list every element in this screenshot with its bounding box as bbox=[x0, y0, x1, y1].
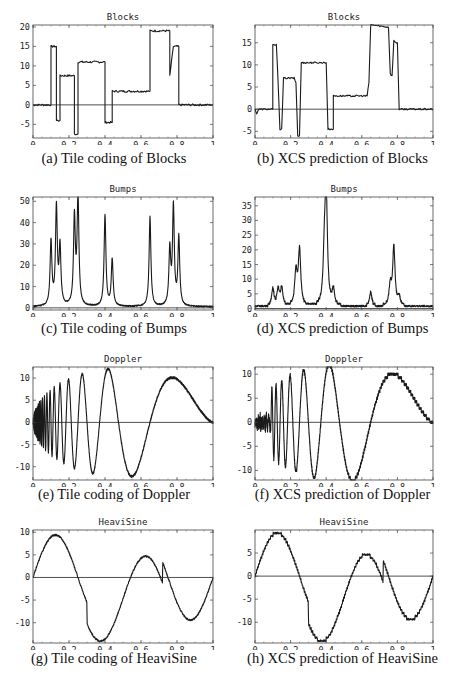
blocks-xcs-chart: Blocks00.20.40.60.81-5051015 bbox=[228, 0, 457, 145]
plot-area bbox=[33, 197, 213, 307]
y-tick-label: 5 bbox=[247, 548, 252, 558]
x-tick-label: 0 bbox=[30, 140, 35, 145]
y-tick-label: 10 bbox=[20, 61, 30, 71]
y-tick-label: -10 bbox=[15, 462, 30, 472]
y-tick-label: 50 bbox=[20, 196, 30, 206]
heavisine-xcs-chart: HeaviSine00.20.40.60.81-10-505 bbox=[228, 505, 457, 650]
plot-title: Bumps bbox=[109, 184, 136, 194]
x-tick-label: 0.8 bbox=[169, 140, 184, 145]
y-tick-label: 0 bbox=[25, 417, 30, 427]
y-tick-label: 5 bbox=[25, 550, 30, 560]
x-tick-label: 1 bbox=[210, 312, 215, 317]
y-tick-label: -5 bbox=[20, 595, 30, 605]
plot-frame bbox=[255, 530, 433, 643]
y-tick-label: -10 bbox=[237, 617, 252, 627]
y-tick-label: 10 bbox=[20, 527, 30, 537]
plot-frame bbox=[255, 197, 433, 310]
x-tick-label: 0 bbox=[252, 140, 257, 145]
caption-g: (g) Tile coding of HeaviSine bbox=[0, 650, 228, 667]
y-tick-label: 30 bbox=[242, 215, 252, 225]
bumps-xcs-chart: Bumps00.20.40.60.8105101520253035 bbox=[228, 172, 457, 317]
chart-panel-e: Doppler00.20.40.60.81-10-50510 bbox=[0, 342, 228, 487]
y-tick-label: 20 bbox=[20, 260, 30, 270]
data-series-line bbox=[33, 197, 213, 307]
x-tick-label: 0.6 bbox=[133, 312, 148, 317]
y-tick-label: 0 bbox=[247, 104, 252, 114]
y-tick-label: 0 bbox=[25, 100, 30, 110]
x-tick-label: 0.4 bbox=[319, 140, 334, 145]
chart-panel-h: HeaviSine00.20.40.60.81-10-505 bbox=[228, 505, 457, 650]
plot-title: HeaviSine bbox=[99, 517, 148, 527]
y-tick-label: 10 bbox=[20, 373, 30, 383]
plot-area bbox=[255, 367, 433, 480]
y-tick-label: 15 bbox=[20, 41, 30, 51]
y-tick-label: 15 bbox=[242, 260, 252, 270]
caption-b: (b) XCS prediction of Blocks bbox=[228, 150, 457, 167]
plot-area bbox=[255, 197, 433, 307]
y-tick-label: 10 bbox=[20, 282, 30, 292]
y-tick-label: 35 bbox=[242, 201, 252, 211]
y-tick-label: 10 bbox=[242, 60, 252, 70]
data-series-line bbox=[255, 197, 433, 307]
y-tick-label: -10 bbox=[237, 465, 252, 475]
y-tick-label: 0 bbox=[247, 304, 252, 314]
y-tick-label: 0 bbox=[25, 572, 30, 582]
y-tick-label: 5 bbox=[247, 393, 252, 403]
y-tick-label: -5 bbox=[20, 119, 30, 129]
plot-title: Bumps bbox=[330, 184, 357, 194]
data-series-line bbox=[255, 532, 433, 641]
plot-title: Blocks bbox=[107, 12, 140, 22]
caption-d: (d) XCS prediction of Bumps bbox=[228, 320, 457, 337]
x-tick-label: 0.4 bbox=[319, 312, 334, 317]
x-tick-label: 0 bbox=[30, 312, 35, 317]
y-tick-label: 30 bbox=[20, 239, 30, 249]
x-tick-label: 0.2 bbox=[283, 312, 298, 317]
y-tick-label: 0 bbox=[247, 571, 252, 581]
plot-title: Blocks bbox=[328, 12, 361, 22]
data-series-line bbox=[33, 534, 213, 642]
chart-panel-g: HeaviSine00.20.40.60.81-10-50510 bbox=[0, 505, 228, 650]
caption-f: (f) XCS prediction of Doppler bbox=[228, 486, 457, 503]
caption-e: (e) Tile coding of Doppler bbox=[0, 486, 228, 503]
y-tick-label: 20 bbox=[242, 245, 252, 255]
x-tick-label: 0.4 bbox=[97, 312, 112, 317]
x-tick-label: 0.6 bbox=[354, 140, 369, 145]
y-tick-label: 5 bbox=[247, 289, 252, 299]
plot-title: Doppler bbox=[104, 354, 143, 364]
plot-title: HeaviSine bbox=[320, 517, 369, 527]
plot-area bbox=[255, 532, 433, 641]
y-tick-label: 15 bbox=[242, 38, 252, 48]
data-series-line bbox=[255, 25, 433, 137]
heavisine-tile-chart: HeaviSine00.20.40.60.81-10-50510 bbox=[0, 505, 228, 650]
y-tick-label: -5 bbox=[242, 126, 252, 136]
y-tick-label: -5 bbox=[242, 441, 252, 451]
x-tick-label: 1 bbox=[430, 140, 435, 145]
caption-h: (h) XCS prediction of HeaviSine bbox=[228, 650, 457, 667]
x-tick-label: 0.4 bbox=[97, 140, 112, 145]
plot-frame bbox=[33, 530, 213, 643]
data-series-line bbox=[255, 367, 433, 480]
bumps-tile-chart: Bumps00.20.40.60.8101020304050 bbox=[0, 172, 228, 317]
data-series-line bbox=[33, 30, 213, 135]
y-tick-label: 10 bbox=[242, 274, 252, 284]
x-tick-label: 0.2 bbox=[61, 312, 76, 317]
y-tick-label: 5 bbox=[25, 80, 30, 90]
y-tick-label: 20 bbox=[20, 22, 30, 32]
doppler-tile-chart: Doppler00.20.40.60.81-10-50510 bbox=[0, 342, 228, 487]
chart-panel-f: Doppler00.20.40.60.81-10-50510 bbox=[228, 342, 457, 487]
y-tick-label: 25 bbox=[242, 230, 252, 240]
y-tick-label: -5 bbox=[242, 594, 252, 604]
x-tick-label: 0.8 bbox=[390, 140, 405, 145]
y-tick-label: 40 bbox=[20, 218, 30, 228]
y-tick-label: -10 bbox=[15, 618, 30, 628]
plot-area bbox=[255, 25, 433, 137]
x-tick-label: 1 bbox=[210, 140, 215, 145]
y-tick-label: 10 bbox=[242, 369, 252, 379]
chart-panel-b: Blocks00.20.40.60.81-5051015 bbox=[228, 0, 457, 145]
y-tick-label: 0 bbox=[25, 303, 30, 313]
x-tick-label: 0.2 bbox=[61, 140, 76, 145]
doppler-xcs-chart: Doppler00.20.40.60.81-10-50510 bbox=[228, 342, 457, 487]
x-tick-label: 0 bbox=[252, 312, 257, 317]
x-tick-label: 0.8 bbox=[390, 312, 405, 317]
x-tick-label: 0.8 bbox=[169, 312, 184, 317]
